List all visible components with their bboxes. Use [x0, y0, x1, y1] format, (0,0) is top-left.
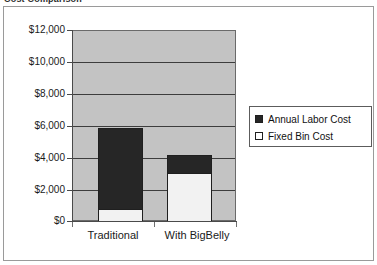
gridline-8000: [73, 94, 235, 95]
figure-title-strip: Cost Comparison: [0, 0, 377, 5]
bar-traditional-annual-labor-cost[interactable]: [98, 128, 143, 210]
x-tick-mark-middle: [154, 222, 155, 227]
y-tick-mark-6000: [67, 126, 72, 127]
y-axis-label-12000: $12,000: [7, 25, 65, 35]
y-axis-label-2000: $2,000: [7, 185, 65, 195]
x-axis-label-with-bigbelly: With BigBelly: [154, 229, 240, 241]
y-axis-label-6000: $6,000: [7, 121, 65, 131]
y-tick-mark-2000: [67, 190, 72, 191]
y-axis-label-8000: $8,000: [7, 89, 65, 99]
y-axis-line: [72, 30, 73, 222]
y-tick-mark-4000: [67, 158, 72, 159]
y-axis-label-0: $0: [7, 216, 65, 226]
bar-bigbelly-annual-labor-cost[interactable]: [167, 155, 212, 174]
y-tick-mark-10000: [67, 62, 72, 63]
bar-bigbelly-fixed-bin-cost[interactable]: [167, 173, 212, 222]
gridline-6000: [73, 126, 235, 127]
legend-swatch-filled-square-icon: [255, 115, 263, 123]
legend-label-fixed-bin-cost: Fixed Bin Cost: [268, 131, 333, 142]
legend-label-annual-labor-cost: Annual Labor Cost: [268, 114, 351, 125]
chart-legend: Annual Labor Cost Fixed Bin Cost: [249, 106, 372, 147]
legend-swatch-open-square-icon: [255, 132, 263, 140]
y-tick-mark-8000: [67, 94, 72, 95]
y-tick-mark-12000: [67, 30, 72, 31]
y-axis-label-10000: $10,000: [7, 57, 65, 67]
y-axis-label-4000: $4,000: [7, 153, 65, 163]
plot-area: [72, 30, 236, 221]
legend-item-fixed-bin-cost[interactable]: Fixed Bin Cost: [255, 128, 366, 144]
chart-figure-frame: $12,000 $10,000 $8,000 $6,000 $4,000 $2,…: [3, 6, 374, 261]
x-axis-label-traditional: Traditional: [72, 229, 154, 241]
y-axis-labels: $12,000 $10,000 $8,000 $6,000 $4,000 $2,…: [4, 7, 65, 262]
page-title: Cost Comparison: [4, 0, 82, 4]
gridline-10000: [73, 62, 235, 63]
legend-item-annual-labor-cost[interactable]: Annual Labor Cost: [255, 111, 366, 127]
x-tick-mark-left: [72, 222, 73, 227]
x-tick-mark-right: [236, 222, 237, 227]
